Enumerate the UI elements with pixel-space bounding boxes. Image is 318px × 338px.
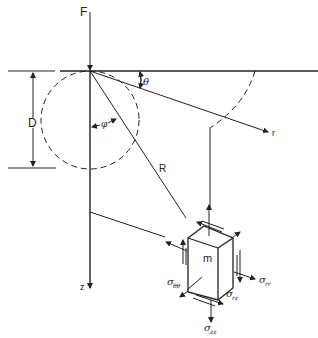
element-leader-line [90, 212, 165, 237]
left-normal-arrow [166, 242, 187, 251]
svg-text:rz: rz [232, 294, 239, 301]
sigma-rz-label: σ rz [226, 288, 239, 301]
theta-label: θ [143, 76, 149, 87]
depth-label: D [28, 116, 37, 130]
phi-label: φ [101, 119, 108, 129]
corner-arrow [233, 232, 240, 237]
r-axis-label: r [272, 128, 275, 138]
sigma-zz-label: σ zz [204, 322, 217, 335]
radius-line [90, 71, 186, 218]
z-axis-label: z [80, 282, 85, 292]
r-axis-line [90, 71, 268, 132]
half-space-point-load-diagram: F D θ φ r R z m σ rr σ θθ σ rz σ zz [0, 0, 318, 338]
phi-arrow-right [108, 119, 116, 123]
element-label: m [203, 252, 212, 264]
phi-arrow-left [92, 125, 100, 127]
force-label: F [80, 5, 87, 19]
svg-text:θθ: θθ [173, 282, 181, 289]
svg-text:rr: rr [265, 280, 272, 287]
svg-text:zz: zz [209, 328, 217, 335]
sigma-theta-arrow [180, 291, 188, 297]
sigma-theta-theta-label: σ θθ [167, 276, 181, 289]
sigma-rr-label: σ rr [259, 274, 272, 287]
bottom-shear-line [193, 298, 215, 306]
radius-label: R [159, 163, 166, 174]
